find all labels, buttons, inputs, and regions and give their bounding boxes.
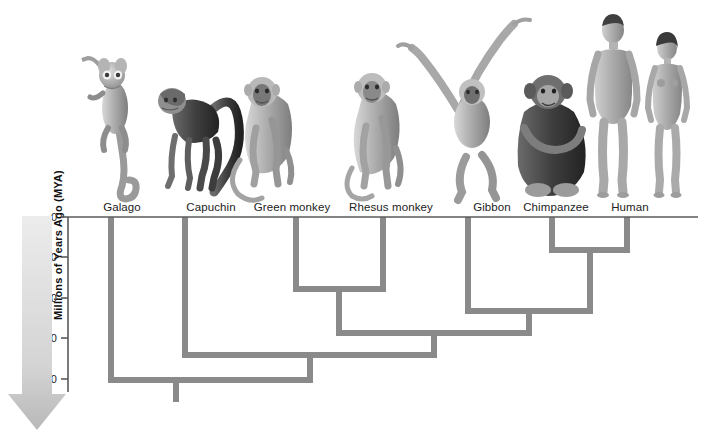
primate-phylogeny-figure: Millions of Years Ago (MYA) 0 10 20 30 4…	[0, 0, 704, 438]
time-direction-arrow	[8, 216, 66, 430]
time-axis	[0, 0, 704, 438]
